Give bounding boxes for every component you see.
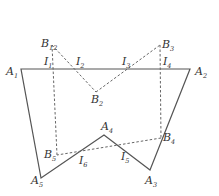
label-i4: I4 <box>162 55 172 70</box>
polygon-intersection-diagram: A1 A2 A3 A4 A5 B12 B2 B3 B4 B5 I1 I2 I3 … <box>0 0 219 196</box>
label-a1: A1 <box>5 65 18 80</box>
label-i3: I3 <box>121 55 131 70</box>
label-i1: I1 <box>43 55 53 70</box>
label-i2: I2 <box>75 55 85 70</box>
dashed-edge-b5-b12 <box>52 45 57 155</box>
label-b5: B5 <box>43 148 56 163</box>
label-i6: I6 <box>78 154 88 169</box>
label-b2: B2 <box>90 93 103 108</box>
label-a3: A3 <box>144 174 157 189</box>
dashed-edge-b3-b4 <box>160 45 161 138</box>
label-b4: B4 <box>162 131 175 146</box>
label-a2: A2 <box>194 65 207 80</box>
label-b12: B12 <box>40 37 57 52</box>
label-i5: I5 <box>120 150 130 165</box>
label-b3: B3 <box>161 38 174 53</box>
dashed-edge-b4-b5 <box>57 138 161 155</box>
label-a4: A4 <box>100 120 113 135</box>
